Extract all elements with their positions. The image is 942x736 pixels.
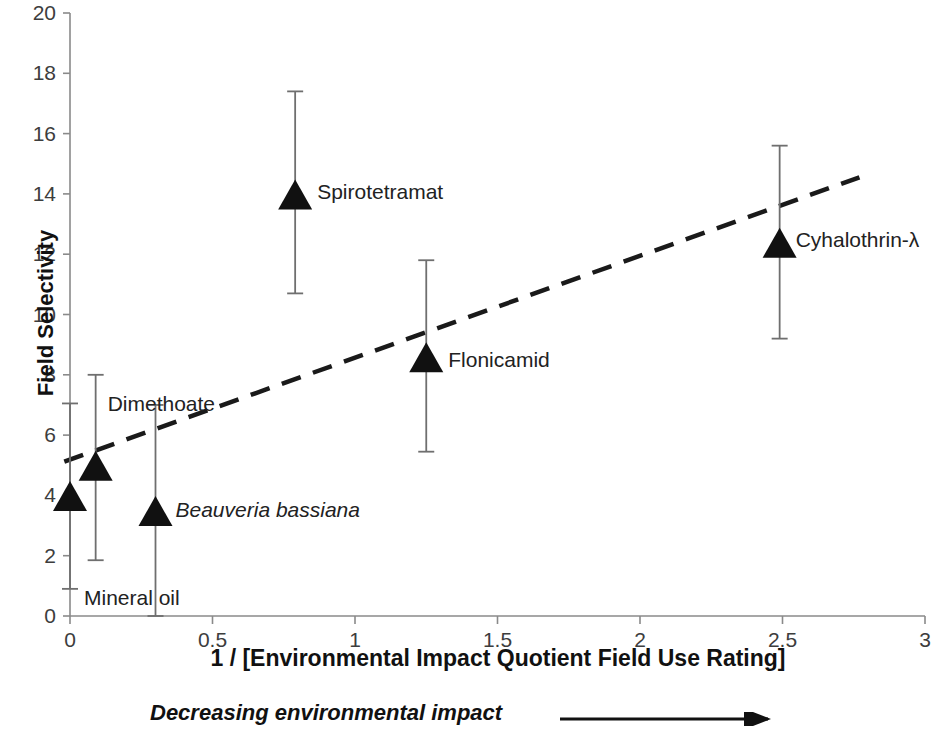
- y-axis-tick-label: 0: [10, 604, 56, 628]
- data-point-label: Cyhalothrin-λ: [796, 228, 920, 252]
- data-point-label: Spirotetramat: [317, 180, 443, 204]
- data-marker-triangle: [409, 342, 443, 372]
- data-marker-triangle: [139, 496, 173, 526]
- x-axis-title: 1 / [Environmental Impact Quotient Field…: [70, 645, 926, 672]
- right-arrow-icon: [560, 712, 780, 726]
- y-axis-tick-label: 4: [10, 483, 56, 507]
- data-point-label: Beauveria bassiana: [176, 498, 360, 522]
- decreasing-impact-annotation: Decreasing environmental impact: [150, 700, 502, 726]
- data-marker-triangle: [79, 451, 113, 481]
- data-marker-triangle: [278, 180, 312, 210]
- y-axis-title: Field Selectivity: [33, 203, 59, 423]
- trendline-path: [64, 177, 859, 461]
- data-point-label: Flonicamid: [448, 348, 550, 372]
- chart-figure: 0246810121416182000.511.522.53Mineral oi…: [0, 0, 942, 736]
- y-axis-tick-label: 20: [10, 1, 56, 25]
- y-axis-tick-label: 16: [10, 122, 56, 146]
- trendline: [64, 177, 859, 461]
- data-point-label: Dimethoate: [108, 392, 215, 416]
- y-axis-tick-label: 6: [10, 423, 56, 447]
- y-axis-tick-label: 18: [10, 61, 56, 85]
- data-marker-triangle: [53, 481, 87, 511]
- axes: [63, 13, 925, 624]
- data-marker-triangle: [763, 228, 797, 258]
- data-point-label: Mineral oil: [84, 586, 180, 610]
- y-axis-tick-label: 2: [10, 544, 56, 568]
- data-markers: [53, 180, 797, 527]
